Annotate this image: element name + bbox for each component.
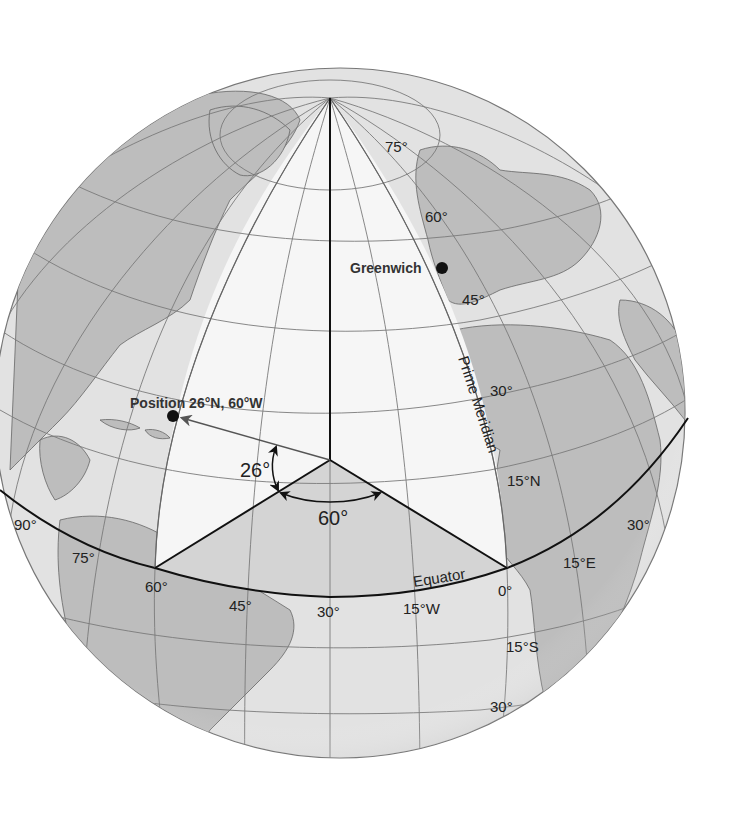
greenwich-point: [436, 262, 448, 274]
greenwich-label: Greenwich: [350, 260, 422, 276]
lon-label-75w: 75°: [72, 549, 95, 566]
latitude-angle-label: 26°: [240, 459, 270, 481]
lat-label-30s: 30°: [490, 698, 513, 715]
globe-diagram: Greenwich Position 26°N, 60°W Prime Meri…: [0, 0, 731, 827]
lat-label-60n: 60°: [425, 208, 448, 225]
position-point: [167, 410, 179, 422]
position-label: Position 26°N, 60°W: [130, 395, 263, 411]
lat-label-45n: 45°: [462, 291, 485, 308]
lon-label-0: 0°: [498, 582, 512, 599]
lon-label-30e: 30°: [627, 516, 650, 533]
lon-label-15w: 15°W: [403, 600, 441, 617]
lat-label-15s: 15°S: [506, 638, 539, 655]
longitude-angle-label: 60°: [318, 507, 348, 529]
lon-label-45w: 45°: [229, 597, 252, 614]
lon-label-60w: 60°: [145, 578, 168, 595]
lon-label-30w: 30°: [317, 603, 340, 620]
lon-label-90w: 90°: [14, 516, 37, 533]
lat-label-75n: 75°: [385, 138, 408, 155]
lat-label-15n: 15°N: [507, 472, 541, 489]
lon-label-15e: 15°E: [563, 554, 596, 571]
globe-sphere: [0, 68, 700, 790]
lat-label-30n: 30°: [490, 382, 513, 399]
